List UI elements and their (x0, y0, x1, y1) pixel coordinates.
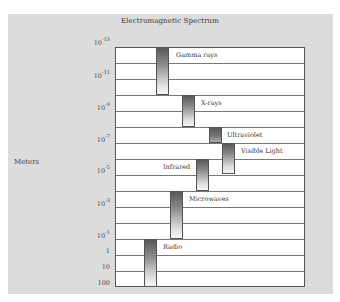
band-label: X-rays (200, 99, 223, 107)
grid-line (116, 79, 304, 80)
grid-line (116, 159, 304, 160)
grid-line (116, 111, 304, 112)
grid-line (116, 63, 304, 64)
band-label: Gamma rays (175, 51, 218, 59)
y-tick: 10-3 (97, 198, 110, 208)
y-tick: 10-1 (97, 230, 110, 240)
band-label: Microwaves (188, 195, 230, 203)
band-label: Infrared (162, 163, 191, 171)
diagram-title: Electromagnetic Spectrum (0, 17, 340, 25)
band-bar-microwaves (170, 191, 183, 239)
band-label: Radio (162, 243, 183, 251)
y-tick: 10-9 (97, 102, 110, 112)
grid-line (116, 223, 304, 224)
grid-line (116, 207, 304, 208)
grid-line (116, 191, 304, 192)
band-bar-visible-light (222, 143, 235, 174)
band-bar-x-rays (182, 95, 195, 127)
spectrum-grid: Gamma raysX-raysUltravioletVisible Light… (115, 47, 305, 287)
y-axis-label: Meters (14, 158, 39, 166)
band-bar-radio (144, 239, 157, 287)
y-tick: 10 (102, 263, 110, 271)
y-tick: 1 (106, 247, 110, 255)
band-bar-infrared (196, 159, 209, 191)
y-tick: 10-11 (94, 70, 110, 80)
y-tick: 100 (98, 279, 110, 287)
band-label: Visible Light (240, 147, 284, 155)
band-label: Ultraviolet (226, 131, 263, 139)
grid-line (116, 143, 304, 144)
y-tick: 10-5 (97, 165, 110, 175)
band-bar-gamma-rays (156, 47, 169, 95)
y-tick: 10-7 (97, 134, 110, 144)
grid-line (116, 95, 304, 96)
band-bar-ultraviolet (209, 127, 222, 143)
grid-line (116, 175, 304, 176)
y-tick: 10-13 (94, 37, 110, 47)
